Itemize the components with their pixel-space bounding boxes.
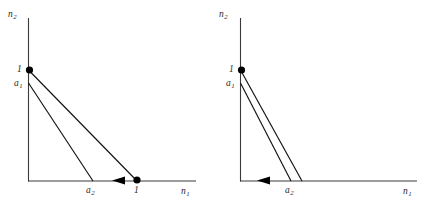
left-x-tick-label-one: 1: [134, 186, 139, 196]
right-panel-plot: [213, 0, 427, 213]
left-x-tick-label-a2: a2: [86, 186, 95, 196]
right-x-axis-label: n1: [403, 187, 412, 197]
right-dot-y-one: [238, 66, 245, 73]
left-y-axis-label: n2: [8, 10, 17, 20]
right-x-tick-label-a2: a2: [285, 186, 294, 196]
left-panel: n2 1 a1 a2 1 n1: [0, 0, 213, 213]
right-line-a1-to-a2: [241, 83, 292, 181]
left-line-a1-to-a2: [29, 83, 94, 181]
right-y-tick-label-one: 1: [229, 65, 234, 75]
left-y-tick-label-a1: a1: [14, 79, 23, 89]
left-dot-y-one: [26, 66, 33, 73]
right-x-axis-left-arrow-icon: [257, 177, 270, 185]
right-y-tick-label-a1: a1: [226, 79, 235, 89]
left-dot-x-one: [133, 176, 140, 183]
left-x-axis-left-arrow-icon: [112, 177, 125, 185]
left-y-tick-label-one: 1: [17, 65, 22, 75]
left-line-one-to-one: [29, 70, 138, 181]
left-panel-plot: [0, 0, 213, 213]
right-panel: n2 1 a1 a2 n1: [213, 0, 426, 213]
right-line-one-to-outer: [241, 70, 303, 181]
right-y-axis-label: n2: [219, 10, 228, 20]
left-x-axis-label: n1: [181, 187, 190, 197]
figure-container: n2 1 a1 a2 1 n1: [0, 0, 427, 213]
